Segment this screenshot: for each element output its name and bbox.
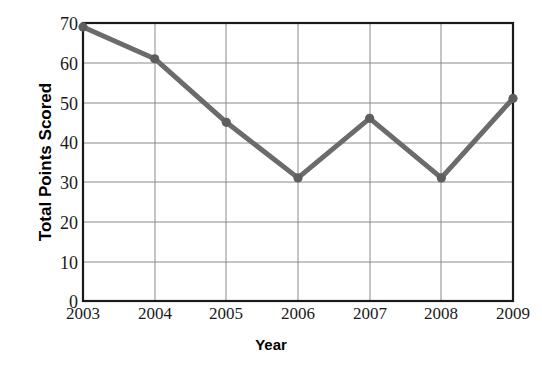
data-point-2003 <box>78 22 87 31</box>
x-tick-label-2005: 2005 <box>191 304 261 324</box>
data-point-2007 <box>365 114 374 123</box>
x-tick-label-2009: 2009 <box>478 304 542 324</box>
x-tick-label-2004: 2004 <box>120 304 190 324</box>
data-point-2004 <box>150 54 159 63</box>
data-point-2008 <box>437 173 446 182</box>
x-tick-label-2003: 2003 <box>48 304 118 324</box>
vertical-gridlines <box>155 23 441 301</box>
x-tick-label-2008: 2008 <box>406 304 476 324</box>
x-axis-title: Year <box>0 336 542 353</box>
x-tick-label-2006: 2006 <box>263 304 333 324</box>
line-chart: Total Points Scored 70 60 50 40 30 20 10… <box>0 0 542 375</box>
data-point-2009 <box>508 94 517 103</box>
data-point-2006 <box>293 173 302 182</box>
x-tick-label-2007: 2007 <box>335 304 405 324</box>
data-point-2005 <box>222 118 231 127</box>
x-axis-tick-labels: 2003 2004 2005 2006 2007 2008 2009 <box>0 304 542 332</box>
